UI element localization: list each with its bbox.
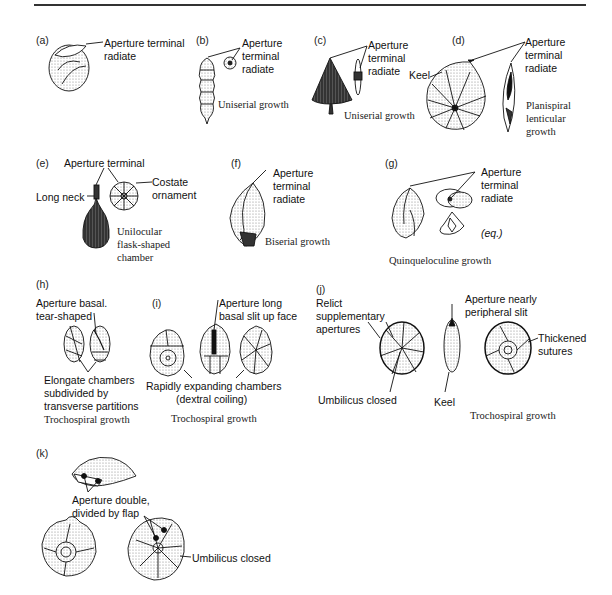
panel-j-label-peripheral-slit: peripheral slit (465, 306, 527, 318)
panel-d-growth-2: lenticular (526, 113, 566, 125)
panel-a-label-1: Aperture terminal (104, 37, 185, 49)
panel-d-growth-3: growth (526, 126, 556, 138)
panel-e-growth-2: flask-shaped (117, 239, 170, 251)
panel-i-label-2: basal slit up face (219, 310, 297, 322)
panel-g-label-2: terminal (481, 179, 518, 191)
panel-b-label-1: Aperture (242, 37, 282, 49)
panel-d-drawing (427, 42, 525, 132)
panel-k-label-2: divided by flap (72, 507, 139, 519)
panel-j-label-thickened: Thickened (538, 332, 586, 344)
panel-b-drawing (199, 48, 240, 124)
panel-e-label-neck: Long neck (36, 191, 84, 203)
panel-d-label-2: terminal (525, 49, 562, 61)
panel-i-label-4: (dextral coiling) (176, 393, 247, 405)
panel-c-drawing (312, 46, 367, 114)
panel-i-growth: Trochospiral growth (171, 413, 257, 425)
panel-e-id: (e) (36, 157, 49, 169)
panel-e-label-costate: Costate (152, 176, 188, 188)
panel-e-label-aperture: Aperture terminal (64, 157, 145, 169)
panel-j-id: (j) (316, 283, 325, 295)
panel-h-label-1: Aperture basal. (36, 297, 107, 309)
panel-h-growth: Trochospiral growth (44, 414, 130, 426)
panel-b-label-2: terminal (242, 50, 279, 62)
panel-c-label-2: terminal (368, 52, 405, 64)
panel-j-label-umbilicus: Umbilicus closed (318, 394, 397, 406)
panel-k-label-umbilicus: Umbilicus closed (192, 552, 271, 564)
panel-j-label-sutures: sutures (538, 345, 572, 357)
panel-d-growth-1: Planispiral (526, 100, 571, 112)
panel-e-growth-1: Unilocular (117, 226, 162, 238)
panel-h-label-5: transverse partitions (44, 400, 139, 412)
panel-g-growth: Quinqueloculine growth (389, 255, 491, 267)
panel-d-keel-label: Keel (409, 69, 430, 81)
panel-f-label-2: terminal (273, 180, 310, 192)
panel-d-id: (d) (452, 34, 465, 46)
panel-i-id: (i) (152, 297, 161, 309)
panel-k-label-1: Aperture double, (72, 494, 150, 506)
panel-j-label-aperture-nearly: Aperture nearly (465, 293, 537, 305)
panel-g-label-3: radiate (481, 192, 513, 204)
panel-j-label-relict: Relict (316, 297, 342, 309)
panel-a-drawing (49, 42, 103, 91)
panel-h-label-2: tear-shaped (36, 310, 92, 322)
panel-b-id: (b) (196, 34, 209, 46)
panel-e-growth-3: chamber (117, 252, 153, 264)
panel-i-label-1: Aperture long (219, 297, 282, 309)
panel-h-id: (h) (36, 278, 49, 290)
panel-j-label-supplementary: supplementary (316, 310, 385, 322)
panel-j-label-keel: Keel (434, 396, 455, 408)
panel-a-label-2: radiate (104, 50, 136, 62)
panel-a-id: (a) (36, 34, 49, 46)
panel-f-drawing (230, 170, 266, 246)
panel-j-label-apertures: apertures (316, 323, 360, 335)
panel-g-label-1: Aperture (481, 166, 521, 178)
panel-f-label-3: radiate (273, 193, 305, 205)
panel-g-eq-label: (eq.) (481, 227, 503, 239)
panel-c-id: (c) (314, 34, 326, 46)
panel-e-label-ornament: ornament (152, 189, 196, 201)
panel-c-label-3: radiate (368, 65, 400, 77)
panel-f-id: (f) (231, 157, 241, 169)
panel-d-label-1: Aperture (525, 36, 565, 48)
panel-g-drawing (392, 172, 475, 238)
panel-f-growth: Biserial growth (265, 236, 330, 248)
panel-i-label-3: Rapidly expanding chambers (146, 380, 281, 392)
panel-c-growth: Uniserial growth (344, 110, 415, 122)
panel-b-label-3: radiate (242, 63, 274, 75)
panel-f-label-1: Aperture (273, 167, 313, 179)
panel-b-growth: Uniserial growth (218, 99, 289, 111)
panel-c-label-1: Aperture (368, 39, 408, 51)
panel-j-growth: Trochospiral growth (470, 410, 556, 422)
panel-d-label-3: radiate (525, 62, 557, 74)
panel-k-id: (k) (36, 447, 48, 459)
panel-g-id: (g) (385, 157, 398, 169)
panel-h-label-4: subdivided by (44, 387, 108, 399)
panel-h-label-3: Elongate chambers (44, 374, 134, 386)
